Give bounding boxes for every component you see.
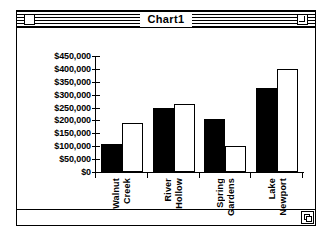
screenshot-root: Chart1 $450,000$400,000$350,000$300,000$… <box>0 0 332 236</box>
y-axis-tick-label: $100,000 <box>54 142 91 151</box>
bar <box>256 88 277 172</box>
chart-window: Chart1 $450,000$400,000$350,000$300,000$… <box>16 10 316 226</box>
x-axis-label-word: Spring <box>215 178 225 208</box>
bar-group <box>200 56 252 172</box>
bar <box>204 119 225 172</box>
bar <box>225 146 246 172</box>
close-box-icon[interactable] <box>24 14 35 25</box>
window-titlebar[interactable]: Chart1 <box>17 11 315 28</box>
bar <box>122 123 143 172</box>
x-axis-category-label: LakeNewport <box>251 178 303 224</box>
x-axis-label-word: Gardens <box>226 178 236 216</box>
x-axis-line <box>95 172 304 173</box>
x-axis-category-label: WalnutCreek <box>96 178 148 224</box>
plot-area <box>96 56 303 172</box>
x-axis-category-label: SpringGardens <box>200 178 252 224</box>
bar <box>174 104 195 172</box>
bar <box>277 69 298 172</box>
y-axis-labels: $450,000$400,000$350,000$300,000$250,000… <box>21 56 91 172</box>
x-axis-label-word: Lake <box>267 178 277 199</box>
x-axis-category-label: RiverHollow <box>148 178 200 224</box>
bar <box>153 108 174 172</box>
x-axis-label-word: Creek <box>122 178 132 204</box>
bar-group <box>251 56 303 172</box>
content-bottom-divider <box>17 209 315 210</box>
x-axis-label-word: Hollow <box>174 178 184 209</box>
bar-group <box>148 56 200 172</box>
window-content: $450,000$400,000$350,000$300,000$250,000… <box>17 28 315 225</box>
y-axis-tick-label: $200,000 <box>54 116 91 125</box>
y-axis-tick-label: $350,000 <box>54 77 91 86</box>
y-axis-tick-label: $0 <box>81 168 91 177</box>
bar <box>101 144 122 172</box>
y-axis-tick-label: $50,000 <box>59 155 91 164</box>
zoom-box-icon[interactable] <box>297 14 308 25</box>
bar-group <box>96 56 148 172</box>
window-title: Chart1 <box>17 11 315 28</box>
x-axis-labels: WalnutCreekRiverHollowSpringGardensLakeN… <box>96 178 303 224</box>
y-axis-tick-label: $250,000 <box>54 103 91 112</box>
y-axis-tick-label: $300,000 <box>54 90 91 99</box>
grow-box-square-front <box>306 216 312 222</box>
y-axis-tick-label: $150,000 <box>54 129 91 138</box>
bar-chart: $450,000$400,000$350,000$300,000$250,000… <box>17 28 315 210</box>
y-axis-tick-label: $400,000 <box>54 64 91 73</box>
x-axis-label-word: River <box>163 178 173 202</box>
grow-box-icon[interactable] <box>301 211 314 224</box>
window-title-text: Chart1 <box>140 12 191 27</box>
x-axis-label-word: Walnut <box>111 178 121 209</box>
y-axis-tick-label: $450,000 <box>54 52 91 61</box>
